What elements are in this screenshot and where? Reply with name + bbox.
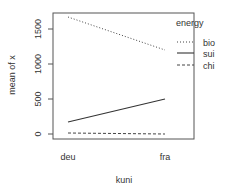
- series-bio-line: [68, 17, 165, 50]
- y-axis-label: mean of x: [7, 55, 17, 95]
- interaction-plot: 0 500 1000 1500 mean of x deu fra kuni e…: [0, 0, 226, 190]
- legend: energy bio sui chi: [176, 18, 215, 71]
- y-tick-label-500: 500: [33, 91, 43, 106]
- y-tick-label-1000: 1000: [33, 54, 43, 74]
- legend-title: energy: [176, 18, 204, 28]
- legend-bio-label: bio: [203, 38, 215, 48]
- x-axis-label: kuni: [116, 175, 133, 185]
- legend-chi-label: chi: [203, 61, 215, 71]
- y-tick-label-1500: 1500: [33, 19, 43, 39]
- y-tick-label-0: 0: [33, 131, 43, 136]
- y-axis: [48, 29, 53, 134]
- series-chi-line: [68, 133, 165, 134]
- x-tick-label-fra: fra: [160, 152, 171, 162]
- series-sui-line: [68, 99, 165, 122]
- legend-sui-label: sui: [203, 49, 215, 59]
- x-tick-label-deu: deu: [60, 152, 75, 162]
